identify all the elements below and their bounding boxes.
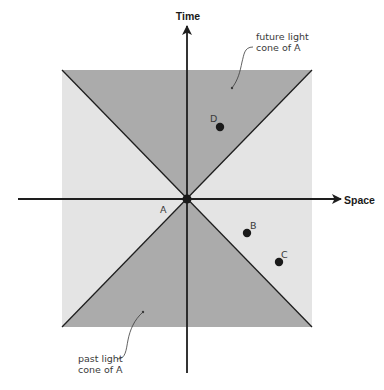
past-cone-label-line2: cone of A (78, 364, 123, 375)
future-cone-label-line2: cone of A (256, 42, 301, 53)
future-cone-leader-dot (231, 87, 233, 89)
past-cone-leader-dot (142, 311, 144, 313)
space-axis-label: Space (344, 194, 375, 206)
event-a-label: A (160, 204, 167, 215)
time-axis-label: Time (176, 10, 200, 22)
event-d-dot (216, 123, 224, 131)
event-c-label: C (281, 249, 288, 260)
event-a-dot (183, 195, 192, 204)
event-d-label: D (210, 113, 217, 124)
future-cone-label-line1: future light (256, 31, 309, 42)
light-cone-diagram: Time Space A D B C future light cone of … (0, 0, 384, 390)
event-b-label: B (250, 220, 257, 231)
past-cone-label-line1: past light (78, 353, 123, 364)
